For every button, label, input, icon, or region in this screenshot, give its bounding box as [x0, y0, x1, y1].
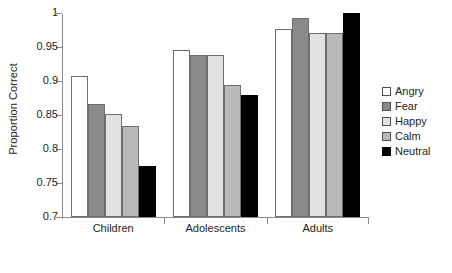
bar [88, 104, 105, 217]
legend-swatch-icon [382, 87, 391, 96]
x-axis-label-children: Children [62, 222, 164, 234]
legend-item-angry[interactable]: Angry [382, 84, 450, 99]
legend-swatch-icon [382, 147, 391, 156]
legend-label: Angry [395, 86, 424, 97]
bar-group [275, 13, 360, 217]
bar [71, 76, 88, 217]
legend-swatch-icon [382, 117, 391, 126]
legend-label: Fear [395, 101, 418, 112]
legend-swatch-icon [382, 132, 391, 141]
y-axis-line [62, 14, 63, 219]
bar [122, 126, 139, 217]
legend-label: Happy [395, 116, 427, 127]
x-axis-label-adolescents: Adolescents [164, 222, 266, 234]
legend-swatch-icon [382, 102, 391, 111]
y-axis-tick-label: 0.8 [43, 142, 58, 154]
y-axis-title-text: Proportion Correct [7, 63, 19, 155]
bar [173, 50, 190, 217]
bar [343, 13, 360, 217]
bar-group [173, 13, 258, 217]
plot-area: 10.950.90.850.80.750.7 ChildrenAdolescen… [62, 14, 369, 218]
x-axis-line [62, 217, 369, 218]
legend: AngryFearHappyCalmNeutral [382, 84, 450, 159]
legend-label: Neutral [395, 146, 430, 157]
bar [292, 18, 309, 217]
bar [241, 95, 258, 217]
bar [275, 29, 292, 217]
bar [224, 85, 241, 217]
bar-chart: Proportion Correct 10.950.90.850.80.750.… [0, 0, 452, 273]
legend-item-fear[interactable]: Fear [382, 99, 450, 114]
bar [309, 33, 326, 217]
y-axis-tick-label: 0.9 [43, 74, 58, 86]
y-axis-title: Proportion Correct [2, 0, 24, 218]
x-axis-label-adults: Adults [267, 222, 369, 234]
bar [139, 166, 156, 217]
bar-group [71, 13, 156, 217]
legend-item-calm[interactable]: Calm [382, 129, 450, 144]
bar [207, 55, 224, 217]
bar [105, 114, 122, 217]
y-axis-tick-label: 0.95 [37, 40, 58, 52]
legend-label: Calm [395, 131, 421, 142]
y-axis-tick-label: 0.85 [37, 108, 58, 120]
legend-item-happy[interactable]: Happy [382, 114, 450, 129]
bar [190, 55, 207, 217]
bar [326, 33, 343, 217]
y-axis-tick-label: 0.7 [43, 210, 58, 222]
legend-item-neutral[interactable]: Neutral [382, 144, 450, 159]
y-axis-tick-label: 0.75 [37, 176, 58, 188]
y-axis-tick-label: 1 [52, 6, 58, 18]
